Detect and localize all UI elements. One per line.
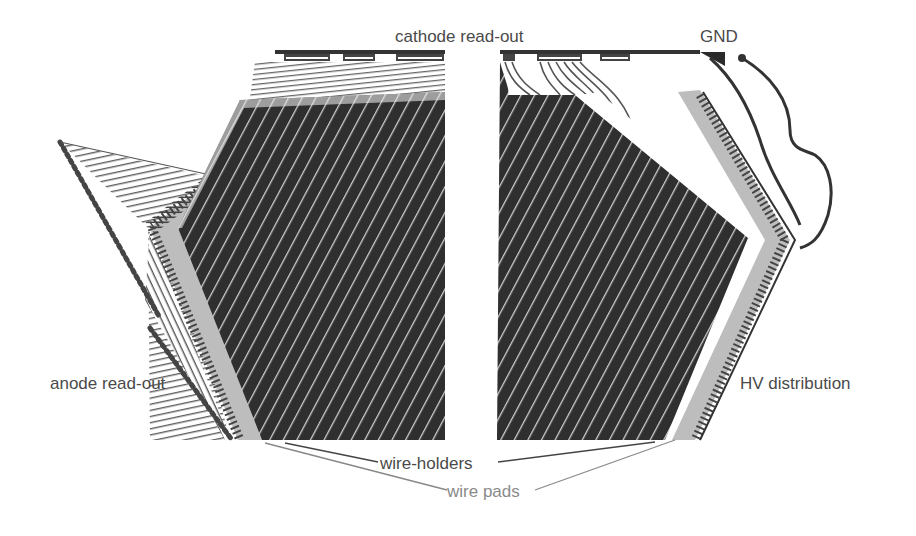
wire-pads-label: wire pads: [447, 483, 520, 500]
cathode-readout-label: cathode read-out: [395, 28, 524, 45]
anode-readout-label: anode read-out: [50, 375, 165, 392]
gnd-label: GND: [700, 28, 738, 45]
hv-distribution-label: HV distribution: [740, 375, 851, 392]
wire-holders-label: wire-holders: [380, 455, 473, 472]
